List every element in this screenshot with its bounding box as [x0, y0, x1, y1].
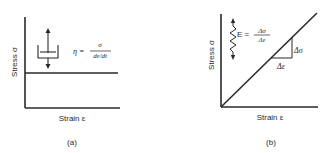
- panel-b: Δσ Δε Stress σ Strain ε (b) E = Δσ Δε: [207, 13, 318, 147]
- equation-lhs-b: E =: [237, 30, 250, 39]
- equation-numerator-b: Δσ: [257, 27, 266, 35]
- spring-icon: [230, 18, 236, 60]
- x-label-a: Strain ε: [59, 114, 86, 123]
- delta-epsilon-label: Δε: [276, 62, 286, 71]
- figure: Stress σ Strain ε (a) η = σ dε/dt Δσ Δε …: [0, 0, 335, 153]
- stress-strain-line-b: [221, 13, 317, 107]
- y-label-a: Stress σ: [10, 47, 19, 77]
- y-label-b: Stress σ: [207, 40, 216, 70]
- x-label-b: Strain ε: [257, 113, 284, 122]
- equation-denominator-b: Δε: [258, 36, 266, 44]
- equation-denominator-a: dε/dt: [93, 52, 108, 60]
- delta-sigma-label: Δσ: [293, 46, 304, 55]
- equation-lhs-a: η =: [73, 47, 84, 56]
- modulus-equation: E = Δσ Δε: [237, 27, 270, 44]
- equation-numerator-a: σ: [98, 41, 102, 49]
- caption-b: (b): [266, 138, 276, 147]
- caption-a: (a): [67, 138, 77, 147]
- dashpot-icon: [38, 28, 58, 69]
- viscosity-equation: η = σ dε/dt: [73, 41, 111, 60]
- panel-a: Stress σ Strain ε (a) η = σ dε/dt: [10, 17, 120, 147]
